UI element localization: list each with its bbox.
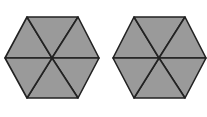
- hexagon-diagram: [0, 0, 207, 117]
- right-hexagon: [113, 17, 206, 98]
- left-hexagon: [5, 17, 99, 98]
